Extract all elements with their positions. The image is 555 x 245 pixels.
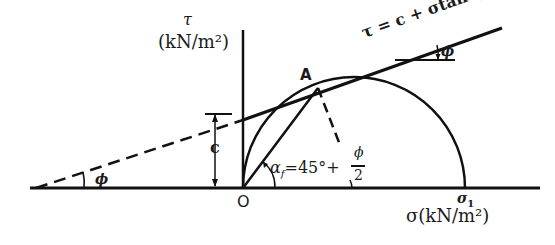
failure-envelope [243,28,502,120]
phi-arc-left [83,172,84,188]
sigma1-subscript: 1 [467,198,474,209]
sigma-axis-label: σ(kN/m²) [406,207,489,225]
cohesion-arrow-up [212,114,218,122]
alpha-equation: =45°+ [285,158,340,177]
tau-axis-unit: (kN/m²) [158,33,229,51]
phi-left-label: ϕ [95,172,108,186]
cohesion-label: c [210,140,220,156]
alpha-symbol: α [270,158,281,177]
tau-axis-symbol: τ [183,12,192,28]
normal-dashed-line [318,88,340,145]
cohesion-arrow-down [212,179,218,187]
fraction-denominator: 2 [354,168,363,182]
failure-angle-label: αf=45°+ [270,160,340,179]
sigma1-label: σ1 [457,191,474,209]
sigma1-symbol: σ [457,190,467,206]
point-a-label: A [300,68,312,83]
origin-label: O [237,194,250,210]
phi-right-label: ϕ [441,44,454,58]
fraction-numerator: ϕ [354,145,364,159]
